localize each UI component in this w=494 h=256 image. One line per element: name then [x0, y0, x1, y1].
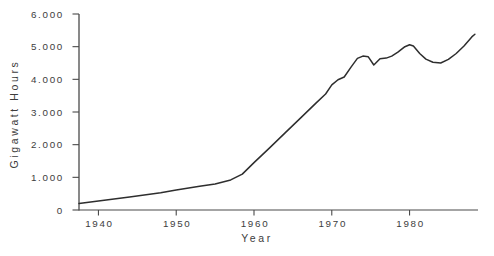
x-tick-label: 1980: [396, 218, 425, 229]
data-line-gigawatt-hours: [79, 34, 475, 203]
x-tick-label: 1940: [85, 218, 114, 229]
y-axis-title: Gigawatt Hours: [8, 60, 20, 169]
y-tick-label: 6.000: [31, 9, 64, 20]
plot-area: 01.0002.0003.0004.0005.0006.000194019501…: [0, 0, 494, 256]
line-chart: 01.0002.0003.0004.0005.0006.000194019501…: [0, 0, 494, 256]
x-tick-label: 1970: [318, 218, 347, 229]
x-tick-label: 1960: [241, 218, 270, 229]
x-tick-label: 1950: [163, 218, 192, 229]
y-tick-label: 0: [57, 205, 64, 216]
y-tick-label: 1.000: [31, 172, 64, 183]
y-tick-label: 4.000: [31, 74, 64, 85]
x-axis-title: Year: [241, 232, 273, 244]
y-tick-label: 2.000: [31, 139, 64, 150]
y-tick-label: 5.000: [31, 41, 64, 52]
y-tick-label: 3.000: [31, 107, 64, 118]
